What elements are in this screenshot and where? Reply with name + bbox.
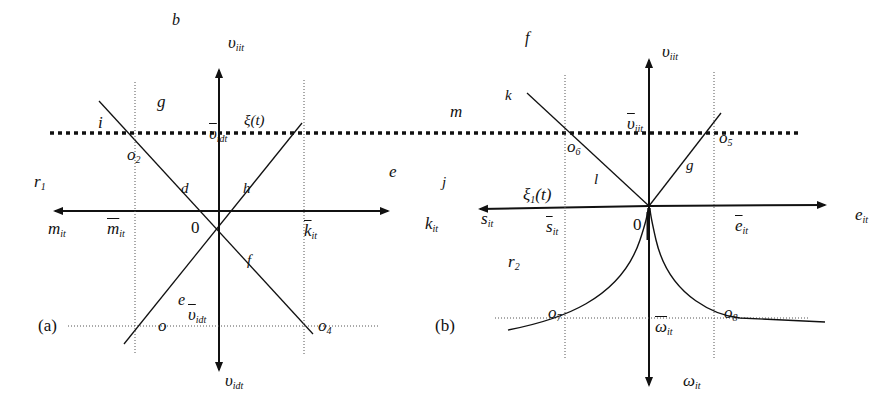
point-o4: o4 (318, 317, 332, 336)
point-o-lower-left: o (158, 317, 167, 336)
region-label-d: d (181, 181, 189, 196)
bar-upsilon-idt-lower-label: υidt (188, 306, 206, 325)
point-o8: o8 (724, 304, 738, 323)
region-label-h: h (243, 181, 251, 196)
axis-label-k-it: kit (425, 215, 438, 234)
axis-label-omega-it: ωit (683, 372, 701, 391)
bar-s-it-label: sit (546, 218, 558, 237)
diagram-canvas: b υiit g i υidt ξ(t) o2 r1 d h e mit mit… (0, 0, 894, 408)
region-label-g-b: g (686, 158, 694, 173)
bar-e-it-label: eit (735, 217, 748, 236)
axis-label-upsilon-iit-b: υiit (662, 43, 678, 62)
axis-label-e-it: eit (855, 206, 868, 225)
region-label-e: e (389, 163, 397, 180)
caption-b: (b) (435, 317, 455, 334)
bar-omega-it-label: ωit (655, 318, 673, 337)
caption-a: (a) (38, 317, 57, 334)
point-o7: o7 (548, 304, 562, 323)
region-label-j-b: j (442, 175, 446, 190)
region-label-r1: r1 (34, 173, 46, 192)
region-label-r2: r2 (508, 253, 520, 272)
axis-label-upsilon-idt: υidt (225, 372, 243, 391)
point-o6: o6 (567, 138, 581, 157)
point-o5: o5 (719, 129, 733, 148)
point-o2: o2 (127, 146, 141, 165)
region-label-b: b (172, 12, 180, 28)
region-label-g: g (157, 93, 166, 110)
region-label-f: f (247, 253, 251, 268)
region-label-f-b: f (525, 30, 529, 46)
axis-label-m-it: mit (48, 220, 66, 239)
region-label-m-b: m (450, 103, 462, 120)
region-label-k-b: k (505, 88, 512, 103)
region-label-l-b: l (594, 172, 598, 187)
origin-label-b: 0 (633, 216, 642, 233)
bar-k-it-label: kit (304, 222, 317, 241)
diagram-lines (0, 0, 894, 408)
bar-upsilon-idt-label: υidt (209, 125, 227, 144)
xi1-label: ξ1(t) (523, 186, 551, 205)
bar-upsilon-iit-label-b: υiit (627, 115, 643, 134)
region-label-e-lower: e (178, 292, 185, 308)
origin-label-a: 0 (191, 219, 200, 236)
xi-label: ξ(t) (244, 113, 265, 128)
region-label-i: i (98, 114, 103, 131)
bar-m-it-label: mit (107, 220, 125, 239)
axis-label-upsilon-iit: υiit (228, 34, 244, 53)
axis-label-s-it: sit (481, 210, 493, 229)
